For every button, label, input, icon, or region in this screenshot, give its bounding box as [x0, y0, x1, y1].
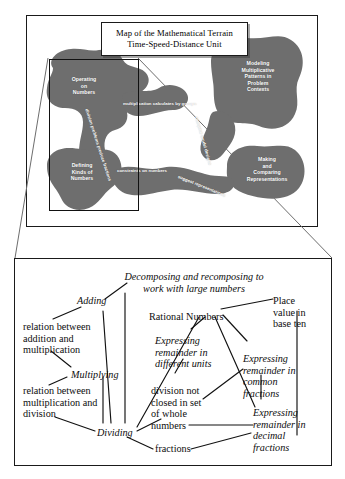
map-title-line-1: Map of the Mathematical Terrain — [116, 28, 233, 39]
map-title-line-2: Time-Speed-Distance Unit — [127, 39, 221, 50]
region-line: Comparing — [233, 169, 301, 176]
figure-root: Map of the Mathematical Terrain Time-Spe… — [0, 0, 345, 479]
region-line: Contexts — [223, 86, 293, 93]
region-line: Representations — [233, 176, 301, 183]
detail-region-rectangle[interactable] — [49, 59, 139, 211]
region-line: Making — [233, 156, 301, 163]
region-line: Modeling — [223, 60, 293, 67]
region-label-making-comparing-representations: Making and Comparing Representations — [233, 156, 301, 182]
region-label-modeling-multiplicative-patterns: Modeling Multiplicative Patterns in Prob… — [223, 60, 293, 93]
map-title-box: Map of the Mathematical Terrain Time-Spe… — [101, 22, 248, 56]
region-line: Patterns in — [223, 73, 293, 80]
terrain-map-panel: Map of the Mathematical Terrain Time-Spe… — [26, 15, 318, 227]
